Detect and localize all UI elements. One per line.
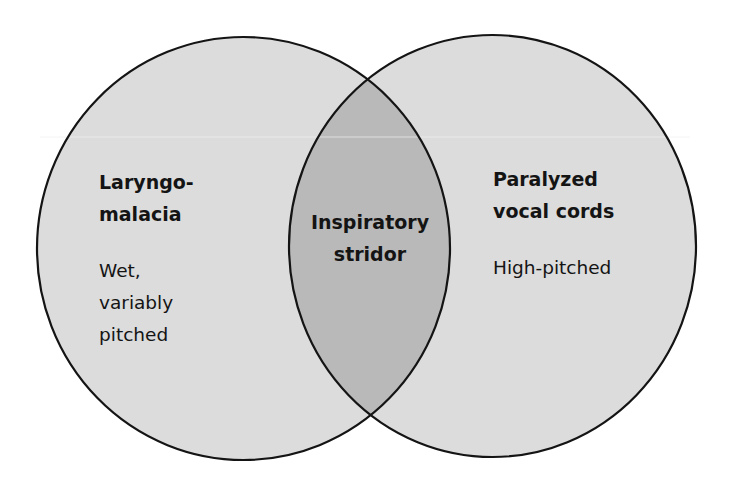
right-desc-line-1: High-pitched: [493, 252, 611, 284]
overlap-title-line-1: Inspiratory: [290, 206, 450, 238]
right-set-title: Paralyzed vocal cords: [493, 163, 614, 227]
right-title-line-1: Paralyzed: [493, 163, 614, 195]
left-desc-line-2: variably: [99, 287, 173, 319]
overlap-title: Inspiratory stridor: [290, 206, 450, 270]
left-desc-line-3: pitched: [99, 319, 173, 351]
left-set-title: Laryngo- malacia: [99, 166, 194, 230]
right-set-description: High-pitched: [493, 252, 611, 284]
left-set-description: Wet, variably pitched: [99, 255, 173, 351]
left-title-line-2: malacia: [99, 198, 194, 230]
overlap-title-line-2: stridor: [290, 238, 450, 270]
left-desc-line-1: Wet,: [99, 255, 173, 287]
right-title-line-2: vocal cords: [493, 195, 614, 227]
left-title-line-1: Laryngo-: [99, 166, 194, 198]
